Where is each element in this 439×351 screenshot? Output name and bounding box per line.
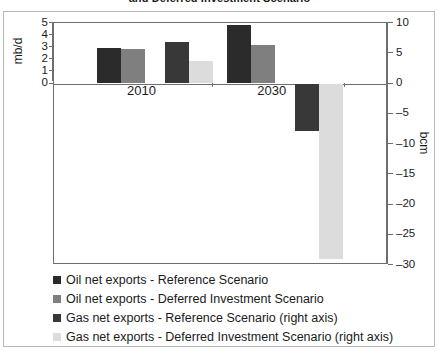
right-axis-tick-label: –10 <box>396 138 415 150</box>
right-axis-tick-mark <box>388 264 393 265</box>
legend-label: Gas net exports - Reference Scenario (ri… <box>66 311 338 325</box>
right-axis-tick-mark <box>388 52 393 53</box>
left-axis-tick-label: 1 <box>42 65 48 77</box>
right-axis-tick-mark <box>388 173 393 174</box>
bar-4-group-1 <box>189 61 213 84</box>
plot-area <box>53 22 387 264</box>
left-axis-tick-label: 5 <box>42 17 48 29</box>
legend-item: Gas net exports - Deferred Investment Sc… <box>53 328 423 346</box>
right-axis-tick-mark <box>388 143 393 144</box>
right-axis-tick-label: –25 <box>396 228 415 240</box>
bar-1-group-2 <box>227 25 251 84</box>
left-axis-tick-label: 3 <box>42 41 48 53</box>
legend-label: Oil net exports - Reference Scenario <box>66 273 268 287</box>
bar-4-group-2 <box>319 84 343 259</box>
right-axis-tick-label: 5 <box>396 47 402 59</box>
right-axis-tick-mark <box>388 204 393 205</box>
legend-swatch-icon <box>53 314 61 322</box>
right-axis-spine <box>387 22 388 264</box>
legend-item: Oil net exports - Reference Scenario <box>53 271 423 289</box>
category-tick-mark <box>212 83 213 87</box>
chart-figure: and Deferred Investment Scenario mb/d 54… <box>0 0 439 351</box>
legend-swatch-icon <box>53 295 61 303</box>
left-axis-tick-label: 4 <box>42 29 48 41</box>
category-label-2010: 2010 <box>102 84 182 97</box>
bar-2-group-2 <box>251 45 275 83</box>
legend-item: Oil net exports - Deferred Investment Sc… <box>53 290 423 308</box>
right-axis-tick-label: 10 <box>396 17 409 29</box>
legend-swatch-icon <box>53 333 61 341</box>
chart-legend: Oil net exports - Reference ScenarioOil … <box>53 271 423 347</box>
category-tick-mark <box>344 83 345 87</box>
chart-title: and Deferred Investment Scenario <box>0 0 439 4</box>
right-axis-tick-label: –5 <box>396 107 409 119</box>
right-axis-tick-label: –15 <box>396 168 415 180</box>
legend-label: Gas net exports - Deferred Investment Sc… <box>66 330 393 344</box>
right-axis-tick-mark <box>388 234 393 235</box>
right-axis: 1050–5–10–15–20–25–30 <box>388 14 428 272</box>
right-axis-tick-label: –20 <box>396 198 415 210</box>
legend-swatch-icon <box>53 276 61 284</box>
right-axis-tick-mark <box>388 83 393 84</box>
right-axis-tick-mark <box>388 113 393 114</box>
bar-3-group-1 <box>165 42 189 83</box>
right-axis-tick-label: 0 <box>396 77 402 89</box>
bar-1-group-1 <box>97 48 121 84</box>
left-axis: 543210 <box>20 14 53 84</box>
bar-2-group-1 <box>121 49 145 83</box>
left-axis-tick-label: 0 <box>42 77 48 89</box>
category-label-2030: 2030 <box>232 84 312 97</box>
legend-label: Oil net exports - Deferred Investment Sc… <box>66 292 324 306</box>
right-axis-tick-mark <box>388 22 393 23</box>
legend-item: Gas net exports - Reference Scenario (ri… <box>53 309 423 327</box>
left-axis-tick-label: 2 <box>42 53 48 65</box>
right-axis-tick-label: –30 <box>396 259 415 271</box>
